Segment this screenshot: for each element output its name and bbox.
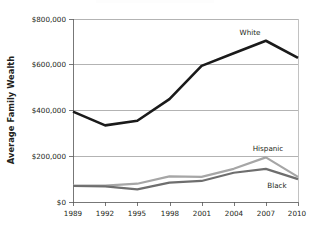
y-tickmarks xyxy=(69,19,73,202)
x-tickmarks xyxy=(73,202,298,206)
y-tick-label-0: $0 xyxy=(57,198,67,207)
x-tick-label-2007: 2007 xyxy=(257,209,275,218)
y-tick-label-200000: $200,000 xyxy=(32,152,67,161)
x-tick-label-1989: 1989 xyxy=(64,209,83,218)
series-label-black: Black xyxy=(267,181,287,190)
line-chart: $800,000 $600,000 $400,000 $200,000 $0 1… xyxy=(0,0,312,228)
y-axis-title: Average Family Wealth xyxy=(6,56,16,165)
x-tick-label-2004: 2004 xyxy=(225,209,244,218)
x-tick-label-1998: 1998 xyxy=(161,209,180,218)
y-tick-labels: $800,000 $600,000 $400,000 $200,000 $0 xyxy=(32,15,67,207)
x-tick-label-1995: 1995 xyxy=(128,209,146,218)
chart-container: $800,000 $600,000 $400,000 $200,000 $0 1… xyxy=(0,0,312,228)
y-tick-label-600000: $600,000 xyxy=(32,60,67,69)
x-tick-labels: 1989 1992 1995 1998 2001 2004 2007 2010 xyxy=(64,209,307,218)
y-tick-label-800000: $800,000 xyxy=(32,15,67,24)
series-label-white: White xyxy=(240,28,261,37)
x-tick-label-1992: 1992 xyxy=(96,209,114,218)
y-tick-label-400000: $400,000 xyxy=(32,106,67,115)
x-tick-label-2010: 2010 xyxy=(288,209,307,218)
x-tick-label-2001: 2001 xyxy=(193,209,211,218)
plot-area-background xyxy=(73,19,298,202)
series-label-hispanic: Hispanic xyxy=(253,144,284,153)
